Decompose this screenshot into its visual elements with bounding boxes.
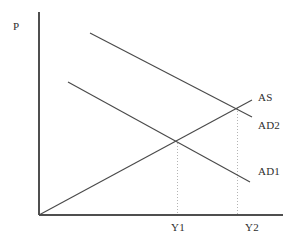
ad1-curve xyxy=(68,82,250,182)
aggregate-demand-supply-chart: P AS AD2 AD1 Y1 Y2 xyxy=(0,0,297,246)
ad2-curve xyxy=(90,33,252,117)
as-curve xyxy=(39,100,252,215)
curve-label-as: AS xyxy=(258,91,272,103)
x-tick-label-y2: Y2 xyxy=(245,221,259,233)
x-tick-label-y1: Y1 xyxy=(171,221,185,233)
y-axis-label: P xyxy=(13,20,19,32)
curve-label-ad2: AD2 xyxy=(258,119,280,131)
curve-label-ad1: AD1 xyxy=(258,165,280,177)
chart-plot-area xyxy=(0,0,297,246)
